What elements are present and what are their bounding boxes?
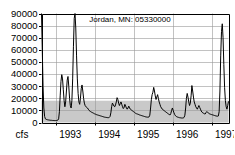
y-axis-tick-label: 60000 xyxy=(11,44,37,55)
y-axis-unit-label: cfs xyxy=(16,129,29,140)
x-axis-tick-label: 1995 xyxy=(137,129,160,140)
x-axis-tick-label: 1993 xyxy=(59,129,82,140)
x-axis-tick-label: 1994 xyxy=(98,129,121,140)
x-axis-tick-label: 1996 xyxy=(176,129,199,140)
y-axis-tick-label: 10000 xyxy=(11,105,37,116)
y-axis-tick-label: 0 xyxy=(32,117,37,128)
chart-title: Jordan, MN: 05330000 xyxy=(89,15,171,24)
y-axis-tick-label: 50000 xyxy=(11,56,37,67)
y-axis-tick-label: 20000 xyxy=(11,93,37,104)
shaded-band xyxy=(42,101,229,123)
hydrograph-chart: 0100002000030000400005000060000700008000… xyxy=(0,0,234,155)
y-axis-tick-label: 80000 xyxy=(11,20,37,31)
x-axis-tick-labels: 19931994199519961997 xyxy=(57,123,235,140)
shaded-band-rect xyxy=(42,101,229,123)
y-axis-tick-label: 70000 xyxy=(11,32,37,43)
chart-figure: 0100002000030000400005000060000700008000… xyxy=(0,0,234,155)
x-axis-tick-label: 1997 xyxy=(215,129,234,140)
y-axis-tick-label: 90000 xyxy=(11,8,37,19)
y-axis-tick-label: 30000 xyxy=(11,81,37,92)
y-axis-tick-labels: 0100002000030000400005000060000700008000… xyxy=(11,8,41,128)
y-axis-tick-label: 40000 xyxy=(11,68,37,79)
